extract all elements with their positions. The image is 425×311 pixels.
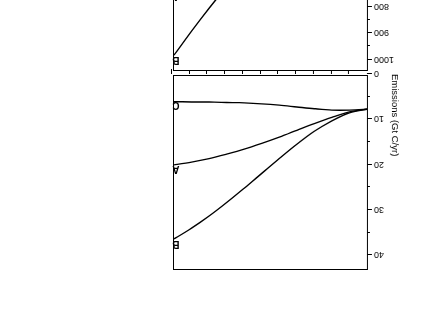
y-tick-label: 40	[374, 251, 384, 260]
curve-c	[174, 102, 367, 111]
y-tick-label: 800	[374, 3, 389, 12]
y-tick	[367, 254, 372, 255]
curve-label-b: B	[172, 55, 179, 65]
y-tick	[367, 96, 370, 97]
emissions-plot-panel: Emissions (Gt C/yr) 010203040 ABC	[173, 75, 368, 270]
y-tick-label: 20	[374, 160, 384, 169]
curve-b	[174, 109, 367, 239]
concentration-curves	[174, 0, 367, 70]
y-tick	[367, 118, 372, 119]
curve-label-b: B	[172, 239, 179, 249]
y-tick	[367, 45, 370, 46]
y-tick	[367, 209, 372, 210]
y-tick	[367, 232, 370, 233]
y-tick	[367, 59, 372, 60]
y-tick	[367, 141, 370, 142]
y-tick	[367, 164, 372, 165]
curve-label-a: A	[172, 0, 179, 1]
curve-label-a: A	[172, 164, 179, 174]
x-tick	[295, 71, 296, 74]
y-tick-label: 1000	[374, 55, 394, 64]
curve-label-c: C	[172, 100, 179, 110]
emissions-curves	[174, 76, 367, 269]
y-tick-label: 10	[374, 115, 384, 124]
x-tick	[171, 69, 172, 74]
y-tick	[367, 6, 372, 7]
x-tick	[224, 71, 225, 74]
y-tick	[367, 186, 370, 187]
x-tick	[189, 71, 190, 74]
x-tick	[260, 71, 261, 74]
emissions-y-axis-title: Emissions (Gt C/yr)	[390, 74, 401, 156]
figure-root: (a) Emissions (Gt C/yr) 010203040 ABC Co…	[0, 0, 425, 311]
y-tick-label: 30	[374, 206, 384, 215]
concentration-plot-panel: Concentration (ppmv) Year 30040050060070…	[173, 0, 368, 71]
y-tick	[367, 19, 370, 20]
y-tick-label: 0	[374, 70, 379, 79]
y-tick	[367, 73, 372, 74]
y-tick	[367, 32, 372, 33]
y-tick-label: 900	[374, 29, 389, 38]
curve-b	[174, 0, 367, 55]
figure-canvas: (a) Emissions (Gt C/yr) 010203040 ABC Co…	[0, 0, 425, 311]
x-tick	[331, 71, 332, 74]
